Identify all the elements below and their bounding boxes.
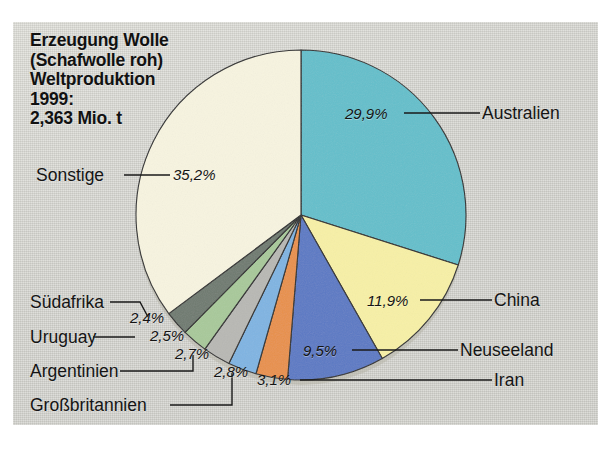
value-china: 11,9% xyxy=(367,292,408,309)
label-suedafrika: Südafrika xyxy=(30,292,104,313)
label-neuseeland: Neuseeland xyxy=(460,340,553,361)
value-sonstige: 35,2% xyxy=(173,166,216,183)
label-china: China xyxy=(494,290,540,311)
label-argentinien: Argentinien xyxy=(30,361,119,382)
value-uruguay: 2,5% xyxy=(150,327,184,344)
value-neuseeland: 9,5% xyxy=(303,342,337,359)
label-uruguay: Uruguay xyxy=(30,327,96,348)
label-grossbritannien: Großbritannien xyxy=(30,395,147,416)
value-iran: 3,1% xyxy=(257,371,291,388)
chart-canvas: Erzeugung Wolle (Schafwolle roh) Weltpro… xyxy=(0,0,613,454)
label-australien: Australien xyxy=(482,103,560,124)
value-argentinien: 2,7% xyxy=(175,345,209,362)
value-australien: 29,9% xyxy=(345,105,388,122)
value-suedafrika: 2,4% xyxy=(130,309,164,326)
label-sonstige: Sonstige xyxy=(36,165,104,186)
pie-slice-group xyxy=(136,50,466,380)
label-iran: Iran xyxy=(494,370,524,391)
value-grossbritannien: 2,8% xyxy=(214,363,248,380)
